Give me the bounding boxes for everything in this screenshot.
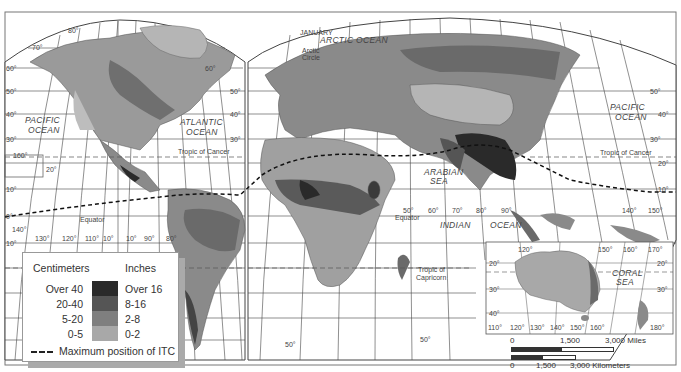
scale-km-start: 0: [510, 361, 514, 370]
label-tropic-cancer-e: Tropic of Cancer: [600, 149, 652, 157]
svg-text:150°: 150°: [570, 324, 585, 331]
label-pacific-e-2: OCEAN: [615, 112, 647, 122]
svg-text:130°: 130°: [35, 235, 50, 242]
svg-text:160°: 160°: [590, 324, 605, 331]
svg-text:10°: 10°: [658, 186, 669, 193]
svg-text:150°: 150°: [598, 246, 613, 253]
label-arabian-2: SEA: [430, 176, 448, 186]
svg-text:0°: 0°: [6, 213, 13, 220]
svg-text:20°: 20°: [489, 260, 500, 267]
legend-swatch-0-5: [92, 326, 118, 341]
svg-text:50°: 50°: [420, 336, 431, 343]
svg-text:10°: 10°: [6, 186, 17, 193]
legend-cm-1: 20-40: [56, 298, 83, 310]
svg-text:120°: 120°: [510, 324, 525, 331]
legend-in-1: 8-16: [125, 298, 146, 310]
svg-text:20°: 20°: [46, 166, 57, 173]
legend-swatch-over40: [92, 281, 118, 296]
legend-cm-2: 5-20: [62, 313, 83, 325]
svg-text:50°: 50°: [650, 88, 661, 95]
svg-text:80°: 80°: [166, 235, 177, 242]
svg-text:160°: 160°: [13, 152, 28, 159]
svg-text:40°: 40°: [489, 310, 500, 317]
label-pacific-e-1: PACIFIC: [610, 102, 646, 112]
svg-text:20°: 20°: [658, 160, 669, 167]
svg-text:70°: 70°: [452, 207, 463, 214]
legend-swatch-5-20: [92, 311, 118, 326]
svg-text:50°: 50°: [403, 207, 414, 214]
svg-text:10°: 10°: [103, 235, 114, 242]
label-capricorn-1: Tropic of: [418, 266, 445, 274]
svg-text:50°: 50°: [285, 341, 296, 348]
svg-text:40°: 40°: [230, 111, 241, 118]
svg-text:140°: 140°: [12, 226, 27, 233]
label-arctic-ocean: ARCTIC OCEAN: [319, 35, 388, 45]
svg-text:30°: 30°: [650, 136, 661, 143]
svg-text:10°: 10°: [6, 240, 17, 247]
svg-text:10°: 10°: [126, 235, 137, 242]
svg-text:170°: 170°: [648, 246, 663, 253]
legend-in-2: 2-8: [125, 313, 140, 325]
legend-cm-header: Centimeters: [33, 262, 90, 274]
scale-miles-mid: 1,500: [560, 336, 580, 345]
legend-swatch-20-40: [92, 296, 118, 311]
label-indian-2: OCEAN: [490, 220, 522, 230]
legend: Centimeters Inches Over 40 20-40 5-20 0-…: [22, 252, 179, 362]
svg-text:140°: 140°: [622, 207, 637, 214]
scale-km-bar: [511, 355, 576, 360]
scale-km-mid: 1,500: [536, 361, 556, 370]
svg-text:40°: 40°: [658, 111, 669, 118]
label-indian-1: INDIAN: [440, 220, 471, 230]
scale-km-end: 3,000 Kilometers: [570, 361, 630, 370]
svg-text:60°: 60°: [205, 65, 216, 72]
svg-text:80°: 80°: [68, 27, 79, 34]
svg-text:120°: 120°: [518, 246, 533, 253]
legend-in-3: 0-2: [125, 328, 140, 340]
label-equator-w: Equator: [80, 216, 105, 224]
legend-in-0: Over 16: [125, 283, 162, 295]
lake-victoria-region: [368, 181, 380, 199]
svg-text:160°: 160°: [623, 246, 638, 253]
svg-text:140°: 140°: [550, 324, 565, 331]
scale-miles-start: 0: [510, 336, 514, 345]
svg-text:30°: 30°: [6, 136, 17, 143]
svg-text:80°: 80°: [476, 207, 487, 214]
australia-inset: [486, 242, 673, 334]
svg-text:30°: 30°: [489, 286, 500, 293]
label-pacific-w-1: PACIFIC: [25, 115, 61, 125]
label-equator-e: Equator: [395, 214, 420, 222]
legend-in-header: Inches: [125, 262, 156, 274]
svg-text:180°: 180°: [650, 324, 665, 331]
svg-text:20°: 20°: [657, 260, 668, 267]
svg-text:110°: 110°: [85, 235, 99, 242]
label-coral-2: SEA: [616, 277, 634, 287]
svg-text:120°: 120°: [62, 235, 77, 242]
label-tropic-cancer-w: Tropic of Cancer: [178, 148, 230, 156]
label-atlantic-2: OCEAN: [186, 127, 218, 137]
svg-text:70°: 70°: [32, 44, 43, 51]
svg-text:150°: 150°: [648, 207, 663, 214]
label-arctic-circle-1: Arctic: [302, 47, 320, 54]
svg-text:60°: 60°: [428, 207, 439, 214]
dashed-line-icon: [31, 351, 53, 353]
svg-text:40°: 40°: [6, 111, 17, 118]
svg-text:50°: 50°: [230, 88, 241, 95]
label-atlantic-1: ATLANTIC: [179, 117, 223, 127]
legend-cm-3: 0-5: [68, 328, 83, 340]
svg-text:90°: 90°: [501, 207, 512, 214]
label-arctic-circle-2: Circle: [302, 54, 320, 61]
svg-text:130°: 130°: [530, 324, 545, 331]
svg-text:30°: 30°: [230, 136, 241, 143]
label-capricorn-2: Capricorn: [416, 274, 446, 282]
tasmania: [581, 315, 589, 321]
svg-text:110°: 110°: [488, 324, 502, 331]
scale-miles-bar: [511, 347, 614, 352]
svg-text:50°: 50°: [6, 88, 17, 95]
label-pacific-w-2: OCEAN: [28, 125, 60, 135]
svg-text:30°: 30°: [657, 286, 668, 293]
legend-itc: Maximum position of ITC: [31, 345, 175, 357]
scale-miles-end: 3,000 Miles: [605, 336, 646, 345]
svg-text:60°: 60°: [6, 65, 17, 72]
legend-cm-0: Over 40: [46, 283, 83, 295]
svg-text:90°: 90°: [144, 235, 155, 242]
